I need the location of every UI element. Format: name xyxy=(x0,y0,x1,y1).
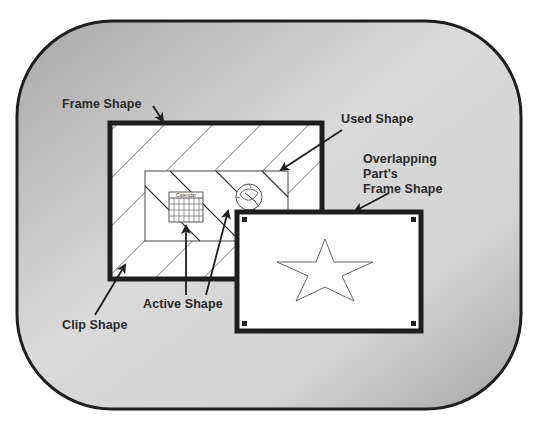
resize-handle-bottom-left[interactable] xyxy=(242,321,247,326)
overlapping-part-frame-shape[interactable] xyxy=(237,212,421,331)
resize-handle-top-right[interactable] xyxy=(411,217,416,222)
resize-handle-bottom-right[interactable] xyxy=(411,321,416,326)
label-active-shape: Active Shape xyxy=(143,297,223,312)
label-clip-shape: Clip Shape xyxy=(62,318,128,333)
clock-icon[interactable] xyxy=(236,184,262,210)
calendar-title: Calendar xyxy=(176,192,197,198)
label-used-shape: Used Shape xyxy=(341,112,414,127)
resize-handle-top-left[interactable] xyxy=(242,217,247,222)
label-frame-shape: Frame Shape xyxy=(62,97,142,112)
calendar-icon[interactable]: Calendar xyxy=(169,192,203,222)
label-overlapping-part-frame-shape: Overlapping Part's Frame Shape xyxy=(363,152,443,197)
diagram-canvas: Calendar xyxy=(0,0,538,425)
